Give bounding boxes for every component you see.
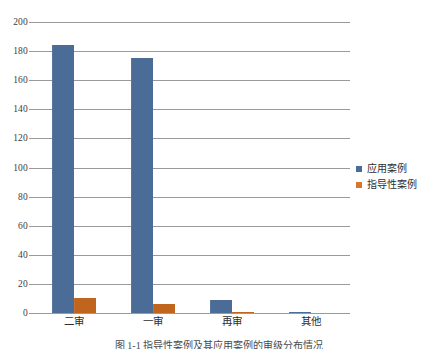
y-axis-tick-label: 80 [2, 192, 28, 202]
y-axis-tick [29, 51, 34, 52]
y-axis-tick-label: 0 [2, 308, 28, 318]
bar[interactable] [74, 298, 96, 313]
y-axis-tick [29, 22, 34, 23]
x-axis-tick-label: 二审 [34, 315, 113, 329]
y-axis-tick-label: 120 [2, 133, 28, 143]
bar-group [131, 22, 175, 313]
y-axis-tick [29, 80, 34, 81]
y-axis-tick-label: 200 [2, 17, 28, 27]
y-axis-tick-label: 180 [2, 46, 28, 56]
y-axis-tick-label: 20 [2, 279, 28, 289]
plot-area [34, 22, 350, 313]
legend-swatch-icon [356, 182, 362, 188]
y-axis-tick-label: 140 [2, 104, 28, 114]
figure-caption: 图 1-1 指导性案例及其应用案例的审级分布情况 [0, 339, 438, 349]
legend-swatch-icon [356, 166, 362, 172]
legend-entry[interactable]: 指导性案例 [356, 179, 436, 191]
bar[interactable] [210, 300, 232, 313]
bar-group [52, 22, 96, 313]
x-axis-tick-labels: 二审一审再审其他 [34, 315, 350, 331]
bar[interactable] [232, 312, 254, 313]
y-axis-tick [29, 284, 34, 285]
y-axis-tick [29, 197, 34, 198]
y-axis-tick-label: 60 [2, 221, 28, 231]
y-axis-tick-label: 100 [2, 163, 28, 173]
bar-chart-figure: 200180160140120100806040200 二审一审再审其他 应用案… [0, 0, 438, 349]
y-axis-tick [29, 168, 34, 169]
chart-legend: 应用案例指导性案例 [356, 163, 436, 195]
bar[interactable] [52, 45, 74, 313]
bar[interactable] [289, 312, 311, 313]
x-axis-tick-label: 一审 [113, 315, 192, 329]
legend-label: 应用案例 [367, 163, 407, 175]
x-axis-tick-label: 其他 [271, 315, 350, 329]
bar-group [289, 22, 333, 313]
y-axis-tick-label: 40 [2, 250, 28, 260]
y-axis-tick [29, 109, 34, 110]
y-axis-tick [29, 138, 34, 139]
y-axis-tick [29, 255, 34, 256]
y-axis-tick-labels: 200180160140120100806040200 [0, 22, 28, 313]
y-axis-tick-label: 160 [2, 75, 28, 85]
y-axis-tick [29, 226, 34, 227]
bar[interactable] [131, 58, 153, 313]
x-axis-tick-label: 再审 [192, 315, 271, 329]
bar[interactable] [153, 304, 175, 313]
gridline [34, 313, 350, 314]
legend-label: 指导性案例 [367, 179, 417, 191]
bar-group [210, 22, 254, 313]
y-axis-tick [29, 313, 34, 314]
legend-entry[interactable]: 应用案例 [356, 163, 436, 175]
